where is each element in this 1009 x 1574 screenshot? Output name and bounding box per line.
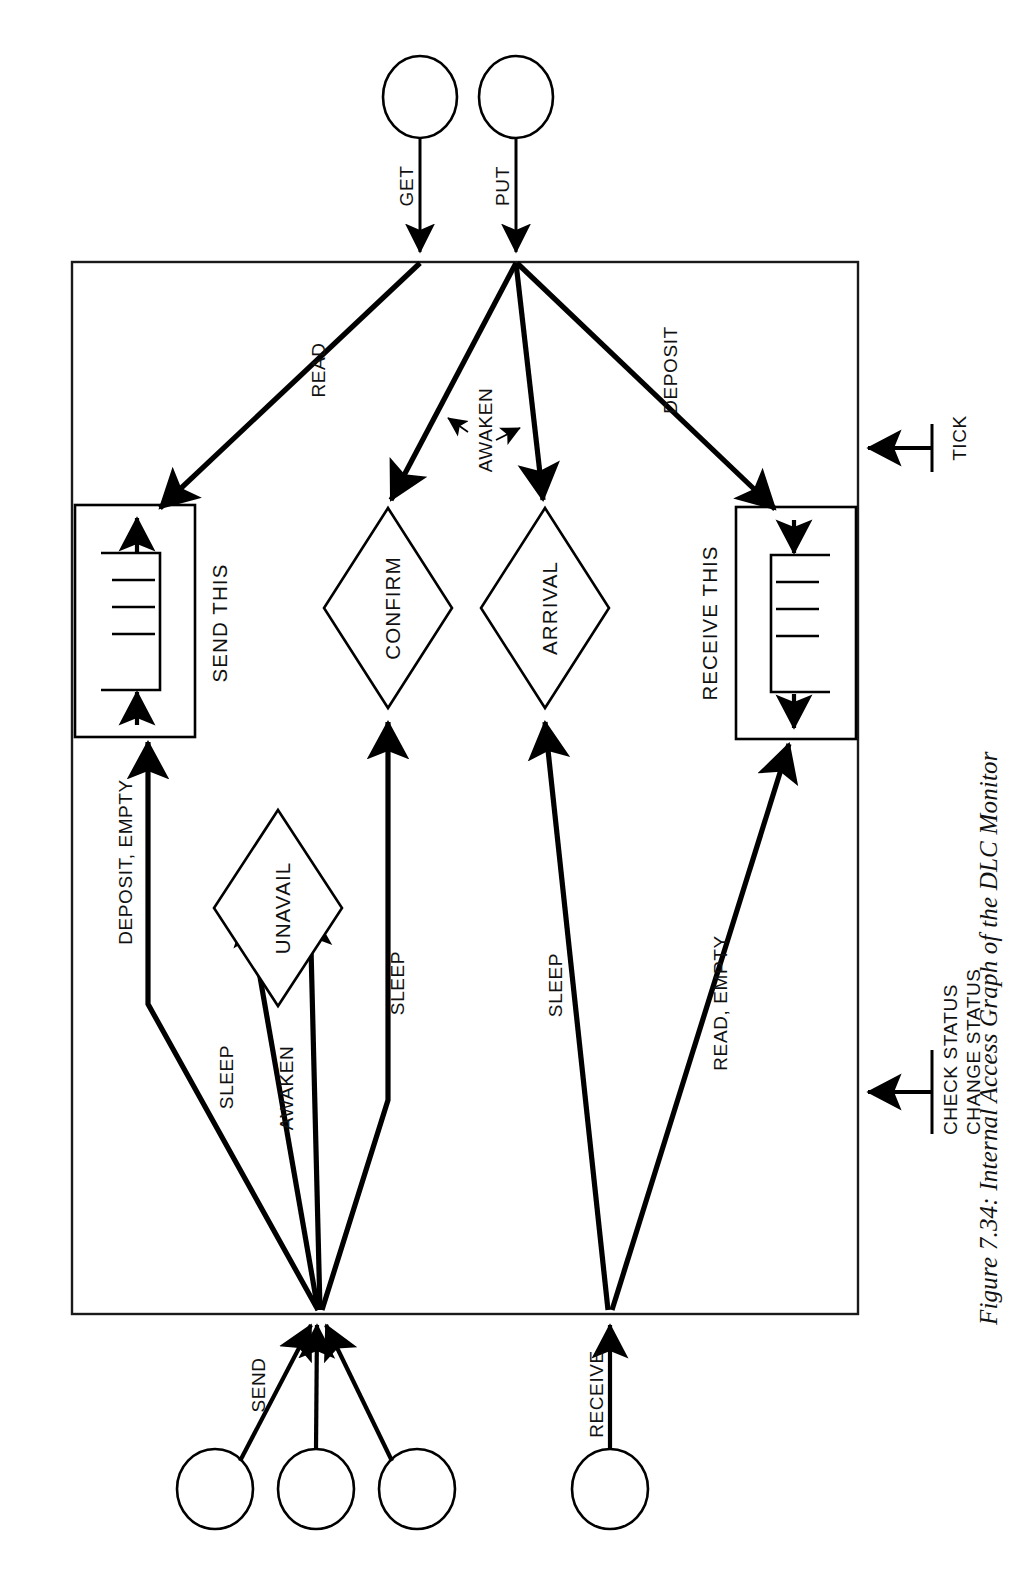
edge-deposit-empty — [148, 742, 318, 1310]
port-label-get: GET — [396, 166, 417, 207]
edge-label-read: READ — [308, 342, 329, 397]
edge-label-deposit-empty: DEPOSIT, EMPTY — [115, 779, 136, 945]
node-label-unavail: UNAVAIL — [271, 862, 294, 954]
edge-label-read-empty: READ, EMPTY — [710, 935, 731, 1070]
edge-deposit — [517, 263, 775, 509]
port-label-receive: RECEIVE — [586, 1350, 607, 1438]
figure-root: GET PUT SEND RECEIVE TICK CHECK STATUS C… — [0, 0, 1009, 1574]
port-label-send: SEND — [248, 1357, 269, 1412]
receive-this-queue-container — [771, 555, 830, 692]
caller-circle-get[interactable] — [383, 56, 457, 138]
awaken-leader-arrow-right — [496, 428, 520, 440]
node-label-receive-this: RECEIVE THIS — [698, 545, 721, 700]
edge-sleep-confirm — [322, 722, 388, 1310]
entry-arrow-send-2 — [316, 1325, 317, 1449]
caller-circle-put[interactable] — [479, 56, 553, 138]
edge-awaken-arrival — [516, 263, 543, 500]
node-label-confirm: CONFIRM — [381, 556, 404, 659]
entry-arrow-send-3 — [326, 1325, 392, 1461]
monitor-boundary — [72, 262, 858, 1314]
edge-read — [160, 263, 420, 508]
edge-read-empty — [612, 744, 789, 1310]
edge-label-awaken-unavail: AWAKEN — [276, 1046, 297, 1131]
awaken-leader-arrow-left — [448, 418, 468, 432]
port-label-put: PUT — [492, 166, 513, 206]
access-graph-diagram: GET PUT SEND RECEIVE TICK CHECK STATUS C… — [0, 0, 1009, 1574]
port-label-check-status: CHECK STATUS — [940, 984, 961, 1135]
caller-circle-send-2[interactable] — [278, 1449, 354, 1529]
caller-circle-receive[interactable] — [572, 1449, 648, 1529]
node-label-send-this: SEND THIS — [208, 564, 231, 683]
edge-label-sleep-unavail: SLEEP — [216, 1045, 237, 1109]
edge-label-sleep-confirm: SLEEP — [387, 951, 408, 1015]
edge-label-sleep-arrival: SLEEP — [545, 953, 566, 1017]
edge-label-awaken: AWAKEN — [475, 388, 496, 473]
port-label-tick: TICK — [949, 415, 970, 461]
send-this-queue-container — [101, 553, 160, 690]
figure-caption: Figure 7.34: Internal Access Graph of th… — [975, 751, 1003, 1325]
node-label-arrival: ARRIVAL — [538, 561, 561, 655]
edge-label-deposit: DEPOSIT — [660, 326, 681, 414]
edge-awaken-confirm — [391, 263, 516, 500]
edge-awaken-unavail — [310, 908, 320, 1310]
